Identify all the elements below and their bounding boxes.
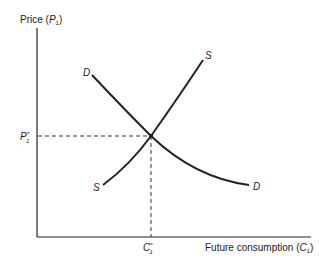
equilibrium-quantity-label: C*1 xyxy=(143,242,153,255)
y-axis-label: Price (P1) xyxy=(20,14,62,26)
supply-label-top: S xyxy=(205,50,212,61)
demand-label-top: D xyxy=(83,67,90,78)
supply-curve xyxy=(103,60,203,185)
x-axis-label: Future consumption (C1) xyxy=(205,242,313,254)
demand-curve xyxy=(92,75,249,185)
equilibrium-price-label: P*1 xyxy=(20,131,30,144)
equilibrium-point xyxy=(149,134,153,138)
demand-label-bottom: D xyxy=(253,181,260,192)
supply-demand-diagram: Price (P1) Future consumption (C1) P*1 C… xyxy=(0,0,326,265)
supply-label-bottom: S xyxy=(93,182,100,193)
